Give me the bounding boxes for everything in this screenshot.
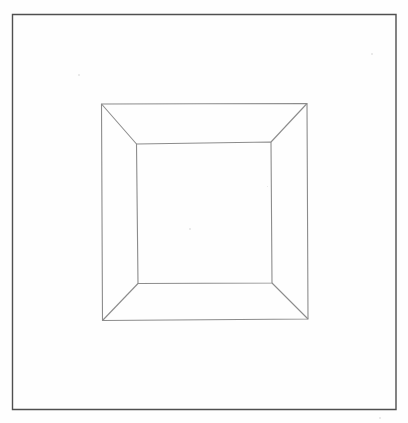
diagonal-bottom-left: [103, 284, 139, 321]
page-border: [13, 15, 397, 410]
inner-square: [137, 142, 273, 284]
diagonal-top-right: [271, 104, 307, 143]
corner-diagonals: [102, 104, 309, 321]
line-drawing: [0, 0, 408, 423]
diagonal-top-left: [102, 104, 137, 144]
diagonal-bottom-right: [272, 283, 308, 319]
drawing-canvas: [0, 0, 408, 423]
